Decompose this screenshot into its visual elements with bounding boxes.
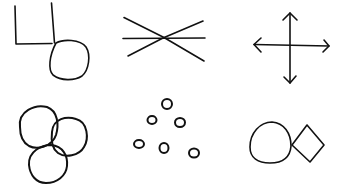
symbol-grid: corner-lines-with-circle three-crossing-…: [0, 0, 349, 184]
four-way-arrows-icon: [254, 13, 329, 83]
three-overlapping-circles-icon: [20, 106, 87, 183]
three-crossing-lines-icon: [123, 18, 205, 62]
corner-lines-with-circle-icon: [15, 3, 89, 80]
circle-and-diamond-icon: [250, 122, 324, 163]
symbols-svg: [0, 0, 349, 184]
scattered-small-circles-icon: [134, 99, 199, 158]
